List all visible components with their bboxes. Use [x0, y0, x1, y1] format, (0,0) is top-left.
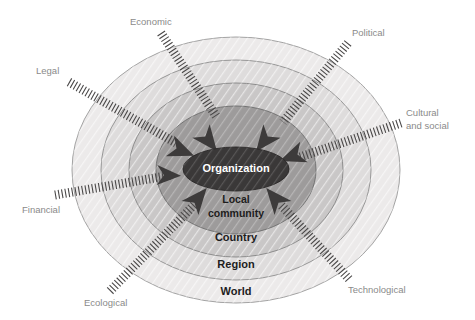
factor-label-cultural-and-social-line1: Cultural [406, 107, 439, 118]
factor-label-financial: Financial [22, 204, 60, 215]
ring-label-local-community-line1: Local [222, 193, 250, 205]
factor-label-economic: Economic [130, 16, 172, 27]
ring-label-organization: Organization [202, 162, 270, 174]
factor-label-cultural-and-social-line2: and social [406, 120, 449, 131]
diagram-canvas: Organization Local community Country Reg… [0, 0, 475, 320]
factor-label-political: Political [352, 27, 385, 38]
ring-label-region: Region [217, 258, 255, 270]
factor-label-legal: Legal [36, 65, 59, 76]
ring-label-local-community-line2: community [208, 207, 264, 219]
stakeholder-layers-diagram: Organization Local community Country Reg… [0, 0, 475, 320]
ring-label-country: Country [215, 231, 258, 243]
ring-label-world: World [221, 285, 252, 297]
factor-label-technological: Technological [348, 284, 406, 295]
factor-label-ecological: Ecological [84, 297, 127, 308]
